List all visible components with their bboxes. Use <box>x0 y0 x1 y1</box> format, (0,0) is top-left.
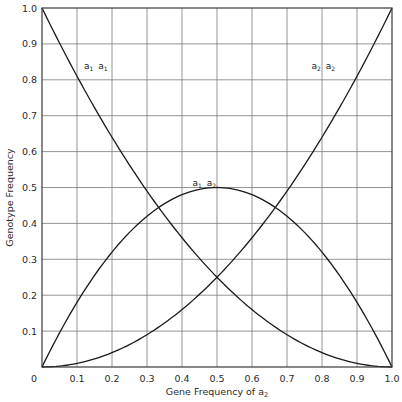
x-tick-label: 0.1 <box>69 373 84 384</box>
y-tick-label: 0.3 <box>22 254 37 265</box>
y-tick-label: 1.0 <box>22 3 37 14</box>
y-axis-ticks: 0.10.20.30.40.50.60.70.80.91.0 <box>22 3 37 337</box>
x-tick-label: 0.9 <box>349 373 364 384</box>
x-tick-label: 0 <box>31 373 37 384</box>
curve-label-a1-a2: a1a2 <box>193 178 217 189</box>
curve-label-a1-a1: a1a1 <box>84 61 108 72</box>
y-tick-label: 0.4 <box>22 218 37 229</box>
x-tick-label: 0.3 <box>139 373 154 384</box>
x-tick-label: 1.0 <box>384 373 399 384</box>
y-tick-label: 0.5 <box>22 182 37 193</box>
x-axis-label: Gene Frequency of a2 <box>166 386 268 399</box>
genotype-frequency-chart: 00.10.20.30.40.50.60.70.80.91.0 0.10.20.… <box>0 0 402 402</box>
x-tick-label: 0.2 <box>104 373 119 384</box>
y-axis-label: Genotype Frequency <box>4 148 15 247</box>
curve-label-a2-a2: a2a2 <box>312 61 336 72</box>
x-tick-label: 0.4 <box>174 373 189 384</box>
y-tick-label: 0.8 <box>22 74 37 85</box>
y-tick-label: 0.9 <box>22 38 37 49</box>
y-tick-label: 0.1 <box>22 326 37 337</box>
x-tick-label: 0.7 <box>279 373 294 384</box>
y-tick-label: 0.7 <box>22 110 37 121</box>
y-tick-label: 0.6 <box>22 146 37 157</box>
y-tick-label: 0.2 <box>22 290 37 301</box>
x-tick-label: 0.5 <box>209 373 224 384</box>
x-tick-label: 0.6 <box>244 373 259 384</box>
x-axis-ticks: 00.10.20.30.40.50.60.70.80.91.0 <box>31 373 400 384</box>
x-tick-label: 0.8 <box>314 373 329 384</box>
